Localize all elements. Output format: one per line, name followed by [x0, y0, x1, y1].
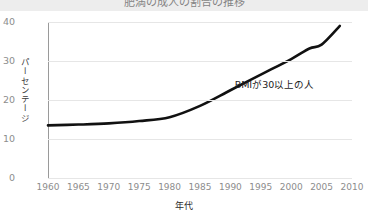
gridline-y-20 — [48, 100, 352, 101]
y-tick-label-20: 20 — [0, 94, 15, 105]
y-axis-label: パーセンテージ — [14, 58, 28, 123]
title-banner: 肥満の成人の割合の推移 — [0, 0, 368, 11]
gridline-y-0 — [48, 178, 352, 179]
plot-area — [48, 22, 352, 178]
y-tick-label-10: 10 — [0, 133, 15, 144]
y-tick-label-40: 40 — [0, 16, 15, 27]
chart-figure: 肥満の成人の割合の推移 パーセンテージ 年代 01020304019601965… — [0, 0, 368, 222]
x-axis-label: 年代 — [0, 199, 368, 212]
chart-title: 肥満の成人の割合の推移 — [0, 0, 368, 9]
x-tick-label-2010: 2010 — [332, 182, 368, 192]
gridline-y-40 — [48, 22, 352, 23]
gridline-y-30 — [48, 61, 352, 62]
y-tick-label-30: 30 — [0, 55, 15, 66]
gridline-y-10 — [48, 139, 352, 140]
y-tick-label-0: 0 — [0, 172, 15, 183]
series-annotation: BMIが30以上の人 — [235, 77, 315, 91]
